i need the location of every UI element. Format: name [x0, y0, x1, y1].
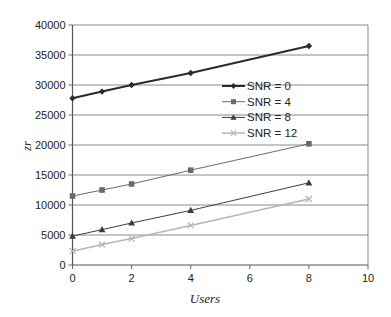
legend-item: SNR = 8 — [222, 111, 291, 123]
legend-label: SNR = 4 — [247, 96, 291, 108]
legend-label: SNR = 12 — [247, 127, 297, 139]
series-snr0 — [69, 43, 312, 102]
legend-label: SNR = 0 — [247, 80, 291, 92]
legend: SNR = 0SNR = 4SNR = 8SNR = 12 — [222, 80, 297, 139]
y-tick-label: 35000 — [35, 49, 66, 61]
y-tick-label: 10000 — [35, 199, 66, 211]
diamond-marker — [188, 70, 194, 76]
square-marker — [231, 99, 236, 104]
y-tick-label: 15000 — [35, 169, 66, 181]
y-axis-ticks: 0500010000150002000025000300003500040000 — [35, 19, 73, 271]
y-tick-label: 20000 — [35, 139, 66, 151]
y-tick-label: 25000 — [35, 109, 66, 121]
x-axis-ticks: 0246810 — [69, 265, 374, 284]
x-tick-label: 6 — [247, 272, 253, 284]
square-marker — [70, 193, 76, 199]
y-axis-title: zr — [19, 140, 34, 152]
x-axis-title: Users — [190, 291, 220, 306]
x-tick-label: 8 — [306, 272, 312, 284]
square-marker — [188, 167, 194, 173]
diamond-marker — [306, 43, 312, 49]
x-tick-label: 0 — [69, 272, 75, 284]
diamond-marker — [128, 82, 134, 88]
square-marker — [306, 141, 312, 147]
data-series — [69, 43, 312, 254]
square-marker — [99, 187, 105, 193]
square-marker — [129, 181, 135, 187]
x-tick-label: 2 — [129, 272, 135, 284]
diamond-marker — [231, 83, 237, 89]
diamond-marker — [69, 95, 75, 101]
series-snr8 — [69, 179, 312, 239]
legend-item: SNR = 12 — [222, 127, 297, 139]
y-tick-label: 40000 — [35, 19, 66, 31]
legend-item: SNR = 4 — [222, 96, 291, 108]
triangle-marker — [306, 179, 313, 185]
x-tick-label: 4 — [188, 272, 194, 284]
x-tick-label: 10 — [362, 272, 374, 284]
legend-item: SNR = 0 — [222, 80, 291, 92]
diamond-marker — [99, 88, 105, 94]
y-tick-label: 0 — [59, 259, 65, 271]
y-tick-label: 5000 — [41, 229, 65, 241]
legend-label: SNR = 8 — [247, 111, 291, 123]
line-chart: 0500010000150002000025000300003500040000… — [0, 0, 391, 317]
y-tick-label: 30000 — [35, 79, 66, 91]
